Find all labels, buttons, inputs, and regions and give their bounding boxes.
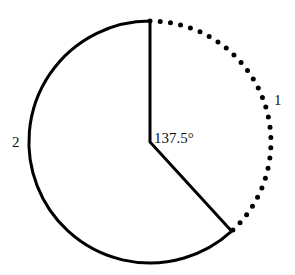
circle-diagram: 137.5° 1 2 <box>0 0 295 275</box>
arc-1-dotted <box>150 21 271 231</box>
arc-2-label: 2 <box>12 134 20 150</box>
arc-1-label: 1 <box>274 92 282 108</box>
arc-2-solid <box>29 21 232 263</box>
angle-radii <box>150 21 232 231</box>
angle-label: 137.5° <box>154 130 194 146</box>
